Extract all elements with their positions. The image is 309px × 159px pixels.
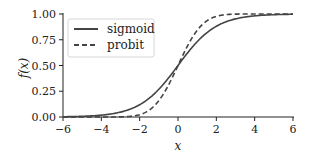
- x-tick-label: −6: [55, 123, 71, 136]
- y-axis-label: f(x): [17, 57, 31, 79]
- x-tick-label: −4: [93, 123, 109, 136]
- x-axis-ticks: −6−4−20246: [55, 117, 297, 136]
- y-tick-label: 0.75: [32, 34, 57, 47]
- y-axis-ticks: 0.000.250.500.751.00: [32, 8, 64, 124]
- x-axis-label: x: [175, 139, 182, 153]
- chart: 0.000.250.500.751.00 −6−4−20246 f(x) x s…: [0, 0, 309, 159]
- y-tick-label: 1.00: [32, 8, 57, 21]
- y-tick-label: 0.50: [32, 60, 57, 73]
- legend-sigmoid-label: sigmoid: [107, 22, 155, 36]
- x-tick-label: 2: [213, 123, 220, 136]
- legend-probit-label: probit: [107, 38, 144, 52]
- x-tick-label: −2: [132, 123, 148, 136]
- legend: sigmoid probit: [68, 19, 155, 57]
- x-tick-label: 4: [251, 123, 258, 136]
- x-tick-label: 0: [175, 123, 182, 136]
- y-tick-label: 0.00: [32, 111, 57, 124]
- x-tick-label: 6: [290, 123, 297, 136]
- y-tick-label: 0.25: [32, 85, 57, 98]
